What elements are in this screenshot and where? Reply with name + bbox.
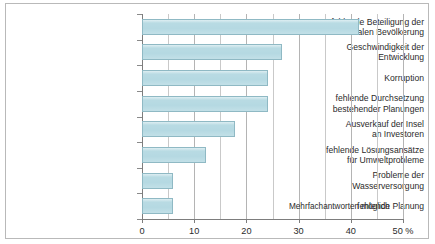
chart-annotation: Mehrfachantworten möglich bbox=[289, 202, 390, 211]
bar-row bbox=[142, 91, 403, 117]
bar-row bbox=[142, 14, 403, 40]
x-tick-mark bbox=[246, 219, 247, 223]
x-tick-mark bbox=[351, 219, 352, 223]
x-tick-mark bbox=[194, 219, 195, 223]
x-tick-label: 50 % bbox=[393, 226, 414, 236]
x-tick-label: 20 bbox=[241, 226, 251, 236]
bar-row bbox=[142, 142, 403, 168]
bar-row bbox=[142, 40, 403, 66]
x-tick-label: 40 bbox=[346, 226, 356, 236]
bar bbox=[142, 173, 173, 189]
bar bbox=[142, 19, 359, 35]
x-tick-mark bbox=[299, 219, 300, 223]
x-tick-label: 0 bbox=[139, 226, 144, 236]
plot-area bbox=[142, 14, 403, 219]
bar bbox=[142, 147, 206, 163]
x-tick-label: 10 bbox=[189, 226, 199, 236]
bar bbox=[142, 121, 235, 137]
x-tick-mark bbox=[142, 219, 143, 223]
bar-row bbox=[142, 65, 403, 91]
bar bbox=[142, 44, 282, 60]
bar bbox=[142, 96, 268, 112]
x-tick-label: 30 bbox=[293, 226, 303, 236]
bar-row bbox=[142, 117, 403, 143]
bar-row bbox=[142, 168, 403, 194]
chart-figure: fehlende Beteiligung der lokalen Bevölke… bbox=[0, 0, 435, 244]
bar bbox=[142, 70, 268, 86]
x-axis-line bbox=[142, 219, 404, 220]
x-tick-mark bbox=[403, 219, 404, 223]
chart-frame: fehlende Beteiligung der lokalen Bevölke… bbox=[5, 3, 429, 239]
bar bbox=[142, 198, 173, 214]
